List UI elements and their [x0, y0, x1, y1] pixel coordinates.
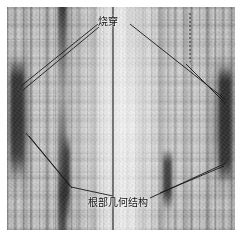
weld-scan-figure: 烧穿 根部几何结构: [0, 0, 242, 237]
leader-rootgeom-label-left: [71, 187, 113, 196]
leader-burnthrough-left-b: [23, 27, 99, 90]
leader-burnthrough-right-a: [130, 24, 226, 100]
leader-burnthrough-right-b: [186, 64, 226, 104]
annotation-label-burn-through: 烧穿: [98, 16, 118, 28]
leader-burnthrough-left-a: [21, 24, 98, 86]
annotation-label-root-geometry: 根部几何结构: [88, 197, 148, 209]
leader-rootgeom-left-b: [29, 136, 72, 188]
leader-rootgeom-right-b: [160, 166, 224, 193]
